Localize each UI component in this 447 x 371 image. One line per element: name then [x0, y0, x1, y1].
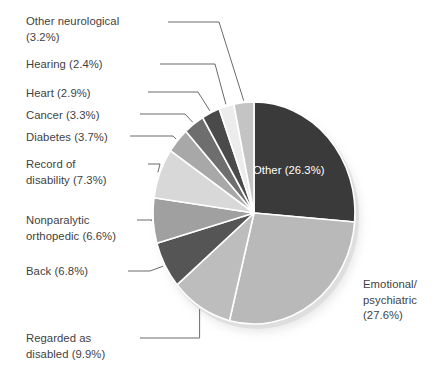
pie-slice: [254, 102, 355, 222]
slice-label-diabetes: Diabetes (3.7%): [26, 130, 161, 146]
pie-slices-group: [153, 102, 355, 324]
pie-chart-figure: Other neurological (3.2%) Hearing (2.4%)…: [0, 0, 447, 371]
slice-label-cancer: Cancer (3.3%): [26, 108, 161, 124]
slice-label-other-inside: Other (26.3%): [253, 164, 325, 176]
slice-label-back: Back (6.8%): [26, 264, 161, 280]
slice-label-nonparalytic-orthopedic: Nonparalytic orthopedic (6.6%): [26, 213, 161, 244]
leader-line: [168, 22, 244, 101]
slice-label-heart: Heart (2.9%): [26, 86, 161, 102]
slice-label-emotional-psychiatric: Emotional/ psychiatric (27.6%): [363, 277, 447, 324]
slice-label-record-of-disability: Record of disability (7.3%): [26, 157, 161, 188]
slice-label-hearing: Hearing (2.4%): [26, 57, 161, 73]
slice-label-other-neurological: Other neurological (3.2%): [26, 14, 161, 45]
leader-line: [160, 64, 226, 104]
slice-label-regarded-as-disabled: Regarded as disabled (9.9%): [26, 331, 161, 362]
